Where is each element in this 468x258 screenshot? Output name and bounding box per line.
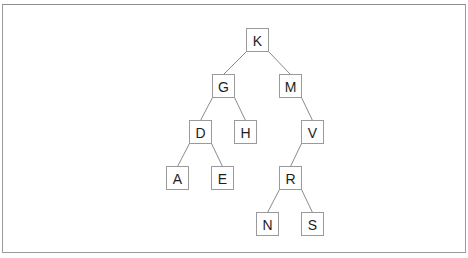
edge-m-v (302, 98, 313, 121)
tree-diagram: KGMDHVAERNS (0, 0, 468, 258)
tree-node-v: V (302, 121, 324, 144)
edge-r-s (302, 190, 313, 213)
tree-node-s: S (302, 213, 324, 236)
edge-v-r (291, 144, 302, 167)
node-label: N (262, 217, 272, 233)
edge-g-h (235, 98, 246, 121)
edge-r-n (268, 190, 280, 213)
node-label: V (308, 125, 318, 141)
tree-node-r: R (280, 167, 302, 190)
node-label: M (285, 79, 297, 95)
node-label: R (285, 171, 295, 187)
tree-node-m: M (280, 75, 302, 98)
node-label: G (218, 79, 229, 95)
tree-node-e: E (212, 167, 234, 190)
edge-k-g (224, 52, 247, 75)
tree-node-k: K (247, 29, 269, 52)
node-label: D (195, 125, 205, 141)
tree-node-a: A (167, 167, 189, 190)
node-label: E (218, 171, 227, 187)
edge-d-e (212, 144, 223, 167)
tree-node-d: D (190, 121, 212, 144)
node-label: H (240, 125, 250, 141)
tree-node-h: H (235, 121, 257, 144)
nodes-layer: KGMDHVAERNS (167, 29, 324, 236)
tree-node-n: N (257, 213, 279, 236)
node-label: S (308, 217, 317, 233)
tree-node-g: G (213, 75, 235, 98)
edge-d-a (178, 144, 190, 167)
node-label: A (173, 171, 183, 187)
node-label: K (253, 33, 263, 49)
edge-k-m (269, 52, 291, 75)
edge-g-d (201, 98, 213, 121)
